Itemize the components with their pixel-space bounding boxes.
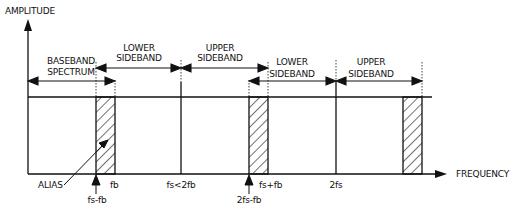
band-label-lower-2-line2: SIDEBAND xyxy=(269,69,314,80)
band-label-baseband-line2: SPECTRUM xyxy=(47,67,95,78)
x-axis-label: FREQUENCY xyxy=(456,169,509,180)
up-arrow-icon xyxy=(245,175,253,185)
x-axis xyxy=(28,170,447,178)
y-axis-label: AMPLITUDE xyxy=(5,6,55,17)
up-arrow-icon xyxy=(92,175,100,185)
band-label-upper-2-line1: UPPER xyxy=(357,57,385,68)
band-label-lower-1-line2: SIDEBAND xyxy=(116,53,161,64)
hatched-band-1 xyxy=(96,97,115,174)
freq-label-fb: fb xyxy=(110,180,118,191)
band-label-upper-2-line2: SIDEBAND xyxy=(348,69,393,80)
band-label-lower-2-line1: LOWER xyxy=(276,57,308,68)
alias-label: ALIAS xyxy=(38,180,63,191)
freq-label-fs-minus-fb: fs-fb xyxy=(88,195,107,206)
hatched-band-3 xyxy=(403,97,422,174)
freq-label-fs: fs<2fb xyxy=(167,180,196,191)
hatched-band-2 xyxy=(249,97,268,174)
freq-label-2fs: 2fs xyxy=(330,180,343,191)
x-axis-arrow-icon xyxy=(435,170,447,178)
band-label-baseband-line1: BASEBAND xyxy=(47,56,95,67)
freq-label-fs-plus-fb: fs+fb xyxy=(259,180,282,191)
band-label-upper-1-line2: SIDEBAND xyxy=(197,53,242,64)
y-axis-arrow-icon xyxy=(24,19,32,31)
freq-label-2fs-minus-fb: 2fs-fb xyxy=(237,195,262,206)
